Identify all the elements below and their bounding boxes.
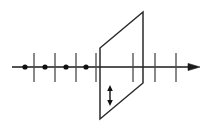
axis-dot-3 [63, 64, 68, 69]
inner-double-arrow-group [107, 85, 113, 106]
main-axis-group [12, 63, 200, 70]
double-arrow-up-head-icon [107, 85, 113, 91]
line-plane-intersection-diagram: Number line intersected by a plane A hor… [0, 0, 218, 131]
diagram-canvas: Number line intersected by a plane A hor… [0, 0, 218, 131]
double-arrow-down-head-icon [107, 100, 113, 106]
axis-dot-4 [83, 64, 88, 69]
axis-dot-2 [42, 64, 47, 69]
axis-arrowhead-icon [188, 63, 200, 70]
plane-group [100, 12, 143, 119]
axis-dot-1 [22, 64, 27, 69]
plane-parallelogram [100, 12, 143, 119]
